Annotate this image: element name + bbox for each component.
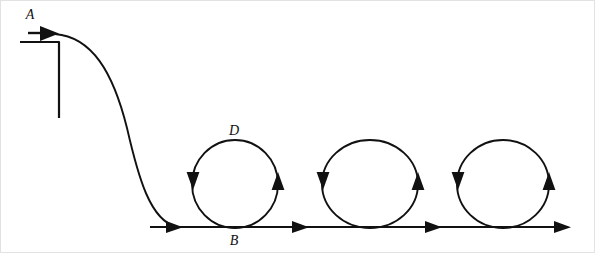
arrow-right-icon	[166, 221, 183, 233]
loop-circle	[322, 140, 418, 228]
arrow-up-icon	[543, 172, 556, 190]
arrow-right-icon	[425, 221, 442, 233]
figure-canvas: A D B	[0, 0, 595, 253]
arrow-down-icon	[452, 172, 465, 190]
vertical-loop-1: D B	[187, 123, 285, 248]
loop-circle	[457, 140, 549, 228]
vertical-loop-3	[452, 140, 556, 228]
ramp-curve	[55, 34, 177, 227]
arrow-down-icon	[187, 172, 200, 190]
arrow-down-icon	[317, 172, 330, 190]
loop-track-diagram: A D B	[0, 0, 595, 253]
label-a: A	[25, 7, 35, 22]
arrow-up-icon	[272, 172, 285, 190]
arrow-right-icon	[292, 221, 309, 233]
arrow-right-icon	[554, 221, 571, 233]
figure-border	[1, 1, 595, 253]
label-b: B	[230, 233, 239, 248]
launch-platform-bracket	[20, 42, 59, 118]
arrow-up-icon	[412, 172, 425, 190]
label-d: D	[228, 123, 239, 138]
loop-circle	[192, 140, 278, 228]
vertical-loop-2	[317, 140, 425, 228]
